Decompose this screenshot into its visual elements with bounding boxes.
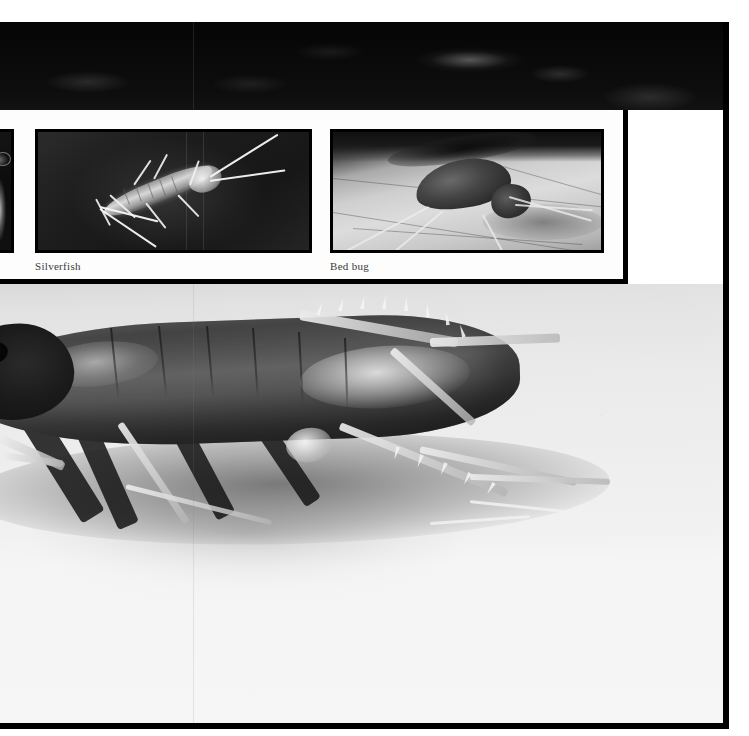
silverfish-leg	[145, 202, 166, 228]
paper-margin-top	[0, 0, 749, 22]
scan-seam-line	[193, 22, 194, 110]
inset-photo-panel: Silverfish Bed bug	[0, 110, 628, 284]
cockroach-spine	[425, 304, 430, 317]
scan-seam-line	[186, 132, 187, 250]
upper-photograph-dark-band	[0, 22, 729, 110]
caption-bedbug: Bed bug	[330, 260, 369, 272]
photo-bedbug	[333, 132, 601, 250]
photo-frame-silverfish	[35, 129, 312, 253]
cockroach-photograph	[0, 284, 729, 728]
photo-floor-surface	[0, 532, 724, 722]
photo-partial-insect	[0, 132, 11, 250]
photo-silverfish	[38, 132, 309, 250]
silverfish-leg	[177, 194, 199, 217]
caption-silverfish: Silverfish	[35, 260, 81, 272]
photo-plate-page: Silverfish Bed bug	[0, 0, 749, 736]
photo-frame-partial	[0, 129, 14, 253]
photo-frame-bedbug	[330, 129, 604, 253]
scan-seam-line	[193, 284, 194, 723]
paper-margin-right	[729, 0, 749, 736]
cockroach-spine	[404, 298, 408, 311]
paper-margin-bottom	[0, 729, 749, 736]
